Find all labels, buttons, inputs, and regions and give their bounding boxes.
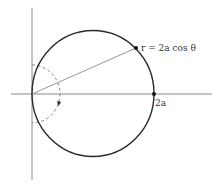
equation-label: r = 2a cos θ bbox=[141, 43, 196, 53]
polar-diagram: r = 2a cos θ 2a bbox=[0, 0, 223, 189]
diameter-point bbox=[152, 92, 156, 96]
two-a-label: 2a bbox=[155, 98, 167, 108]
radius-line bbox=[32, 48, 136, 94]
curve-point bbox=[134, 46, 138, 50]
